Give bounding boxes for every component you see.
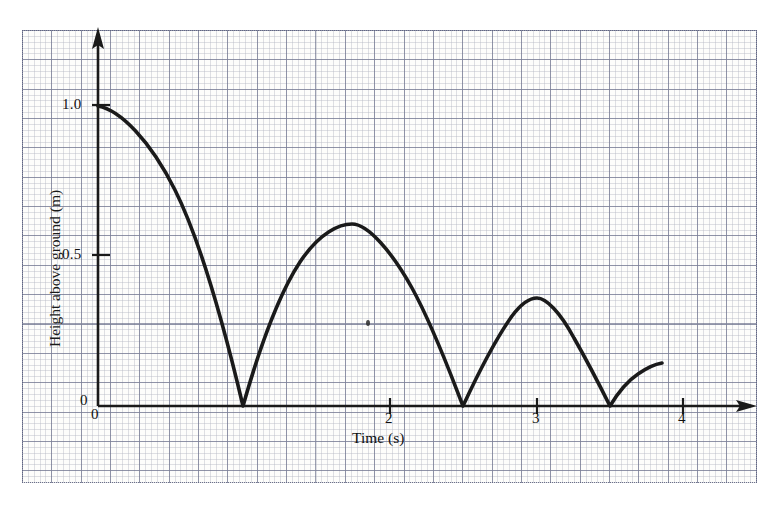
x-axis bbox=[98, 400, 757, 412]
x-origin-label: 0 bbox=[91, 406, 99, 423]
x-tick-label-3: 3 bbox=[532, 410, 540, 427]
height-curve bbox=[98, 106, 662, 406]
y-axis bbox=[92, 27, 104, 406]
x-axis-title: Time (s) bbox=[352, 429, 404, 447]
y-tick-label-1-0: 1.0 bbox=[62, 96, 81, 113]
axis-ticks bbox=[92, 105, 683, 414]
figure-canvas: 1.0 0.5 0 0 2 3 4 Time (s) Height above … bbox=[0, 0, 782, 505]
y-axis-title: Height above ground (m) bbox=[46, 190, 64, 347]
y-tick-label-0: 0 bbox=[80, 392, 88, 409]
x-tick-label-2: 2 bbox=[385, 410, 393, 427]
x-tick-label-4: 4 bbox=[678, 410, 686, 427]
y-tick-label-0-5: 0.5 bbox=[62, 246, 81, 263]
